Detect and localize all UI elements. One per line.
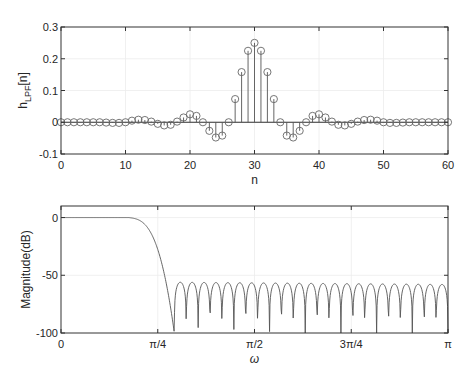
magnitude-response-plot: 0π/4π/23π/4π0-50-100ωMagnitude(dB): [19, 206, 452, 366]
x-tick-label: 0: [58, 159, 64, 171]
x-tick-label: 60: [442, 159, 454, 171]
x-tick-label: 10: [119, 159, 131, 171]
x-tick-label: 0: [58, 338, 64, 350]
x-tick-label: 3π/4: [340, 338, 363, 350]
y-tick-label: 0: [52, 212, 58, 224]
x-axis-label: n: [251, 173, 258, 187]
x-tick-label: 50: [377, 159, 389, 171]
y-tick-label: 0.3: [43, 21, 58, 33]
y-tick-label: 0.1: [43, 85, 58, 97]
y-axis-label: hLPF[n]: [16, 72, 33, 109]
x-tick-label: π: [444, 338, 452, 350]
x-tick-label: π/2: [246, 338, 263, 350]
figure: 0102030405060-0.100.10.20.3nhLPF[n]0π/4π…: [0, 0, 473, 379]
x-axis-label: ω: [250, 352, 259, 366]
y-tick-label: -100: [36, 327, 58, 339]
y-axis-label: Magnitude(dB): [19, 230, 33, 309]
y-tick-label: 0.2: [43, 53, 58, 65]
y-tick-label: -50: [42, 269, 58, 281]
x-tick-label: π/4: [149, 338, 166, 350]
y-tick-label: 0: [52, 116, 58, 128]
y-tick-label: -0.1: [39, 148, 58, 160]
x-tick-label: 30: [248, 159, 260, 171]
impulse-response-plot: 0102030405060-0.100.10.20.3nhLPF[n]: [16, 21, 454, 187]
x-tick-label: 20: [184, 159, 196, 171]
x-tick-label: 40: [313, 159, 325, 171]
